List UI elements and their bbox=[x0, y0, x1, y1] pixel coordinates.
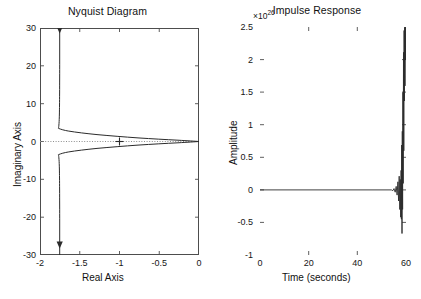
impulse-response-curve bbox=[260, 27, 406, 234]
nyquist-curve-lower bbox=[58, 142, 199, 262]
impulse-curve-layer bbox=[215, 0, 421, 299]
impulse-xticks bbox=[309, 27, 358, 255]
nyquist-curve-upper bbox=[58, 22, 199, 142]
matlab-figure: Nyquist Diagram 30 20 10 0 -10 -20 -30 -… bbox=[0, 0, 421, 299]
impulse-panel: Impulse Response ×1026 2.5 2 1.5 1 0.5 0… bbox=[215, 0, 421, 299]
impulse-yticks bbox=[260, 60, 406, 223]
nyquist-curve-layer bbox=[0, 0, 215, 299]
nyquist-arrow-bottom bbox=[57, 242, 63, 249]
nyquist-arrow-top bbox=[57, 27, 63, 34]
nyquist-critical-point-marker bbox=[116, 138, 124, 146]
nyquist-panel: Nyquist Diagram 30 20 10 0 -10 -20 -30 -… bbox=[0, 0, 215, 299]
